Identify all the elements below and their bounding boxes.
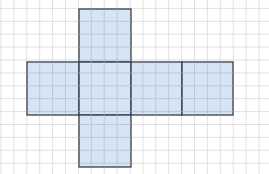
bottom-face xyxy=(79,115,131,167)
front-face xyxy=(79,62,131,115)
cube-net-diagram xyxy=(0,0,269,174)
cube-net-faces xyxy=(27,9,233,167)
left-face xyxy=(27,62,79,115)
top-face xyxy=(79,9,131,62)
right-face xyxy=(131,62,182,115)
